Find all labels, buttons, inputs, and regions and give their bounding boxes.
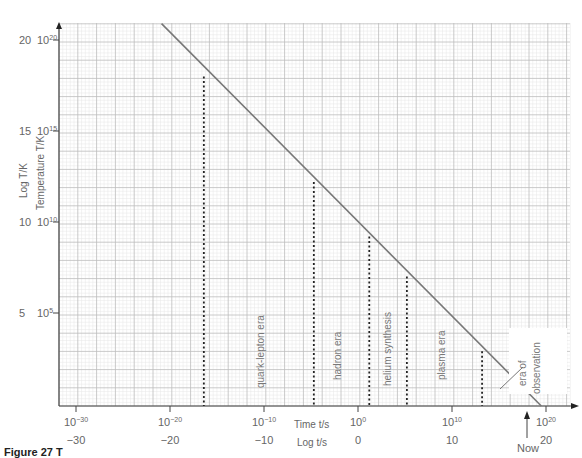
era-label-observation-2: observation (531, 342, 542, 394)
now-label: Now (517, 442, 539, 454)
log-time-axis-title: Log t/s (297, 437, 327, 448)
x-tick-log-label: −10 (255, 434, 274, 446)
y-tick-log-label: 5 (19, 307, 25, 319)
x-tick-power-label: 10−20 (158, 416, 182, 428)
era-label-helium-synthesis: helium synthesis (382, 312, 393, 386)
figure-caption: Figure 27 T (4, 446, 63, 458)
era-label-hadron: hadron era (332, 331, 343, 380)
x-tick-log-label: 0 (355, 434, 361, 446)
x-tick-log-label: −20 (161, 434, 180, 446)
x-tick-log-label: −30 (67, 434, 86, 446)
x-tick-power-label: 10−10 (252, 416, 276, 428)
era-label-observation-1: era of (517, 360, 528, 386)
temperature-line (162, 24, 542, 406)
log-temperature-axis-title: Log T/K (18, 163, 29, 198)
x-tick-power-label: 1010 (442, 416, 462, 428)
x-tick-power-label: 1020 (536, 416, 556, 428)
y-tick-power-label: 1010 (37, 216, 57, 228)
now-arrow-icon (524, 411, 530, 419)
y-tick-power-label: 105 (37, 307, 53, 319)
era-label-plasma: plasma era (436, 330, 447, 380)
time-axis-title: Time t/s (294, 419, 329, 430)
y-tick-log-label: 20 (19, 34, 31, 46)
x-tick-power-label: 100 (350, 416, 366, 428)
y-axis-arrow-icon (56, 22, 62, 29)
x-tick-log-label: 20 (540, 434, 552, 446)
x-tick-power-label: 10−30 (64, 416, 88, 428)
y-tick-log-label: 15 (19, 125, 31, 137)
x-tick-log-label: 10 (446, 434, 458, 446)
era-label-quark-lepton: quark-lepton era (255, 315, 266, 388)
y-tick-log-label: 10 (19, 216, 31, 228)
temperature-axis-title: Temperature T/K (35, 135, 46, 210)
y-tick-power-label: 1015 (37, 125, 57, 137)
y-tick-power-label: 1020 (37, 34, 57, 46)
x-axis-arrow-icon (571, 403, 579, 409)
